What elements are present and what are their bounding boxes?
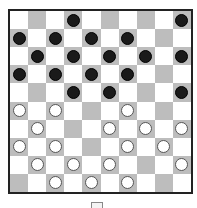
board-square-r5c4[interactable] <box>82 102 100 120</box>
board-square-r7c5[interactable] <box>101 138 119 156</box>
board-square-r0c0[interactable] <box>10 11 28 29</box>
white-piece[interactable] <box>121 104 134 117</box>
board-square-r2c0[interactable] <box>10 47 28 65</box>
board-square-r3c1[interactable] <box>28 65 46 83</box>
white-piece[interactable] <box>85 176 98 189</box>
board-square-r9c4[interactable] <box>82 174 100 192</box>
board-square-r1c9[interactable] <box>173 29 191 47</box>
board-square-r9c5[interactable] <box>101 174 119 192</box>
board-square-r5c9[interactable] <box>173 102 191 120</box>
black-piece[interactable] <box>13 68 26 81</box>
board-square-r7c4[interactable] <box>82 138 100 156</box>
board-square-r0c5[interactable] <box>101 11 119 29</box>
board-square-r4c2[interactable] <box>46 83 64 101</box>
board-square-r4c0[interactable] <box>10 83 28 101</box>
board-square-r0c2[interactable] <box>46 11 64 29</box>
white-piece[interactable] <box>31 122 44 135</box>
black-piece[interactable] <box>13 32 26 45</box>
board-square-r6c5[interactable] <box>101 120 119 138</box>
black-piece[interactable] <box>139 50 152 63</box>
board-square-r2c9[interactable] <box>173 47 191 65</box>
black-piece[interactable] <box>49 32 62 45</box>
black-piece[interactable] <box>121 32 134 45</box>
board-square-r9c8[interactable] <box>155 174 173 192</box>
board-square-r1c5[interactable] <box>101 29 119 47</box>
board-square-r5c8[interactable] <box>155 102 173 120</box>
board-square-r7c6[interactable] <box>119 138 137 156</box>
board-square-r8c7[interactable] <box>137 156 155 174</box>
board-square-r7c9[interactable] <box>173 138 191 156</box>
white-piece[interactable] <box>175 122 188 135</box>
board-square-r6c4[interactable] <box>82 120 100 138</box>
board-square-r9c6[interactable] <box>119 174 137 192</box>
board-square-r1c2[interactable] <box>46 29 64 47</box>
board-square-r6c9[interactable] <box>173 120 191 138</box>
board-square-r3c7[interactable] <box>137 65 155 83</box>
board-square-r6c0[interactable] <box>10 120 28 138</box>
board-square-r8c0[interactable] <box>10 156 28 174</box>
board-square-r5c5[interactable] <box>101 102 119 120</box>
board-square-r8c8[interactable] <box>155 156 173 174</box>
white-piece[interactable] <box>13 140 26 153</box>
board-square-r4c5[interactable] <box>101 83 119 101</box>
board-square-r1c0[interactable] <box>10 29 28 47</box>
board-square-r3c4[interactable] <box>82 65 100 83</box>
board-square-r8c9[interactable] <box>173 156 191 174</box>
white-piece[interactable] <box>49 176 62 189</box>
board-square-r3c6[interactable] <box>119 65 137 83</box>
board-square-r0c4[interactable] <box>82 11 100 29</box>
board-square-r2c4[interactable] <box>82 47 100 65</box>
board-square-r1c1[interactable] <box>28 29 46 47</box>
board-square-r7c2[interactable] <box>46 138 64 156</box>
black-piece[interactable] <box>175 14 188 27</box>
board-square-r3c0[interactable] <box>10 65 28 83</box>
board-square-r4c7[interactable] <box>137 83 155 101</box>
board-square-r7c1[interactable] <box>28 138 46 156</box>
board-square-r7c8[interactable] <box>155 138 173 156</box>
board-square-r4c8[interactable] <box>155 83 173 101</box>
board-square-r5c3[interactable] <box>64 102 82 120</box>
black-piece[interactable] <box>67 14 80 27</box>
black-piece[interactable] <box>31 50 44 63</box>
black-piece[interactable] <box>85 68 98 81</box>
board-square-r7c0[interactable] <box>10 138 28 156</box>
board-square-r4c1[interactable] <box>28 83 46 101</box>
board-square-r5c7[interactable] <box>137 102 155 120</box>
black-piece[interactable] <box>175 50 188 63</box>
board-square-r6c6[interactable] <box>119 120 137 138</box>
board-square-r0c1[interactable] <box>28 11 46 29</box>
board-square-r2c8[interactable] <box>155 47 173 65</box>
black-piece[interactable] <box>103 50 116 63</box>
board-square-r1c6[interactable] <box>119 29 137 47</box>
board-square-r3c3[interactable] <box>64 65 82 83</box>
board-square-r9c7[interactable] <box>137 174 155 192</box>
white-piece[interactable] <box>31 158 44 171</box>
board-square-r3c5[interactable] <box>101 65 119 83</box>
white-piece[interactable] <box>13 104 26 117</box>
white-piece[interactable] <box>157 140 170 153</box>
board-square-r8c2[interactable] <box>46 156 64 174</box>
board-square-r1c4[interactable] <box>82 29 100 47</box>
white-piece[interactable] <box>121 140 134 153</box>
board-square-r5c6[interactable] <box>119 102 137 120</box>
board-square-r2c6[interactable] <box>119 47 137 65</box>
board-square-r6c7[interactable] <box>137 120 155 138</box>
board-square-r2c3[interactable] <box>64 47 82 65</box>
board-square-r3c8[interactable] <box>155 65 173 83</box>
black-piece[interactable] <box>67 86 80 99</box>
black-piece[interactable] <box>103 86 116 99</box>
white-piece[interactable] <box>67 158 80 171</box>
board-square-r8c3[interactable] <box>64 156 82 174</box>
board-square-r2c1[interactable] <box>28 47 46 65</box>
board-square-r9c3[interactable] <box>64 174 82 192</box>
board-square-r4c4[interactable] <box>82 83 100 101</box>
board-square-r0c7[interactable] <box>137 11 155 29</box>
white-piece[interactable] <box>121 176 134 189</box>
board-square-r3c9[interactable] <box>173 65 191 83</box>
board-square-r9c9[interactable] <box>173 174 191 192</box>
black-piece[interactable] <box>67 50 80 63</box>
board-square-r8c5[interactable] <box>101 156 119 174</box>
white-piece[interactable] <box>49 104 62 117</box>
board-square-r1c3[interactable] <box>64 29 82 47</box>
menu-button[interactable] <box>91 202 103 208</box>
